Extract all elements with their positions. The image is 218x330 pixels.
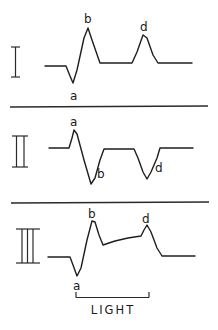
panel-II: a b d [12,115,193,184]
trace-I [45,28,192,83]
light-label: LIGHT [91,303,135,317]
label-b-III: b [88,207,96,221]
erg-figure: b d a a b d b d a [0,0,218,330]
label-b-II: b [97,167,105,181]
label-d-I: d [140,20,148,34]
roman-numeral-II [12,136,28,167]
label-b-I: b [84,12,92,26]
label-d-III: d [142,212,150,226]
trace-III [48,221,195,276]
label-a-III: a [73,279,80,293]
trace-II [49,130,193,184]
label-d-II: d [155,161,163,175]
roman-numeral-III [16,229,40,263]
separator-2 [11,202,209,203]
light-stimulus-bracket: LIGHT [76,292,149,317]
label-a-I: a [70,89,77,103]
panel-III: b d a [16,207,195,293]
panel-I: b d a [11,12,192,103]
separator-1 [10,106,208,107]
roman-numeral-I [11,47,20,77]
label-a-II: a [70,115,77,129]
